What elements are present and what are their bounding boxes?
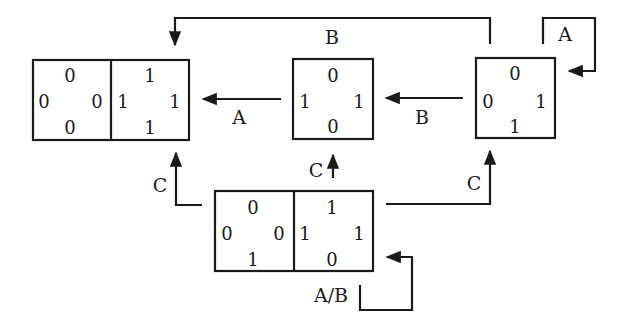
- cell-value: 1: [299, 223, 310, 244]
- transition-right-to-middle: B: [386, 98, 463, 128]
- cell-value: 1: [247, 249, 258, 270]
- cell-value: 0: [509, 63, 520, 84]
- transition-bottom-to-middle: C: [309, 155, 333, 181]
- cell-value: 1: [509, 116, 520, 137]
- transition-label: C: [467, 172, 482, 194]
- cell-value: 0: [247, 197, 258, 218]
- cell-value: 0: [326, 249, 337, 270]
- transition-right-self-loop: A: [543, 18, 595, 71]
- cell-value: 0: [221, 223, 232, 244]
- cell-value: 1: [535, 91, 546, 112]
- cell-value: 1: [169, 91, 180, 112]
- cell-value: 0: [327, 116, 338, 137]
- loop-arrow-icon: [360, 257, 412, 310]
- transition-label: B: [415, 106, 429, 128]
- transition-label: A: [557, 23, 572, 45]
- cell-value: 0: [64, 65, 75, 86]
- arrow-icon: [176, 153, 202, 205]
- state-middle: 0 1 1 0: [293, 59, 373, 139]
- cell-value: 0: [64, 117, 75, 138]
- cell-value: 0: [38, 91, 49, 112]
- cell-value: 0: [327, 65, 338, 86]
- cell-value: 1: [326, 197, 337, 218]
- transition-label: C: [309, 159, 324, 181]
- cell-value: 1: [117, 91, 128, 112]
- transition-bottom-to-right: C: [386, 151, 490, 204]
- transition-label: C: [153, 174, 168, 196]
- state-bottom: 0 0 0 1 1 1 1 0: [215, 191, 373, 271]
- cell-value: 0: [273, 223, 284, 244]
- cell-value: 0: [91, 91, 102, 112]
- transition-bottom-to-left: C: [153, 153, 202, 205]
- cell-value: 1: [299, 91, 310, 112]
- transition-middle-to-left: A: [203, 99, 281, 128]
- state-right: 0 0 1 1: [476, 58, 555, 138]
- transition-right-to-left-top: B: [175, 18, 490, 48]
- transition-label: B: [325, 26, 339, 48]
- transition-label: A/B: [313, 284, 348, 306]
- cell-value: 1: [144, 117, 155, 138]
- cell-value: 1: [353, 91, 364, 112]
- state-left: 0 0 0 0 1 1 1 1: [33, 60, 189, 140]
- cell-value: 0: [482, 91, 493, 112]
- cell-value: 1: [353, 223, 364, 244]
- cell-value: 1: [144, 65, 155, 86]
- transition-label: A: [231, 106, 246, 128]
- state-diagram: 0 0 0 0 1 1 1 1 0 1 1 0 0 0 1 1 0 0 0 1 …: [0, 0, 623, 328]
